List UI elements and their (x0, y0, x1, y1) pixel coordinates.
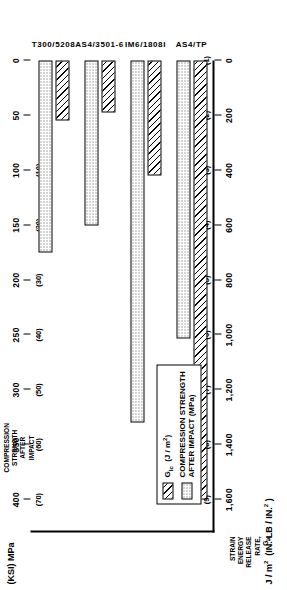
chart-legend: GIc (J / m2) COMPRESSION STRENGTH AFTER … (156, 364, 201, 504)
legend-csai-line-0: COMPRESSION STRENGTH (177, 371, 186, 477)
bottom-tick-mark (214, 443, 221, 444)
top-tick-mark (23, 114, 30, 115)
bar-csai-as4-3501-6 (84, 60, 98, 225)
legend-csai-line-1: AFTER IMPACT (MPa) (186, 394, 195, 477)
bottom-tick-label: 400 (223, 162, 233, 177)
side-label-line-2: RELEASE (244, 536, 252, 590)
top-tick-label: 400 (10, 491, 20, 506)
legend-item-csai: COMPRESSION STRENGTH AFTER IMPACT (MPa) (177, 371, 195, 499)
top-tick-mark (23, 498, 30, 499)
top-axis-title: (KSI) MPa (5, 542, 15, 584)
bar-gic-as4-3501-6 (101, 60, 115, 112)
top-tick-paren-label: (40) (33, 328, 42, 341)
bottom-tick-label: 1,200 (223, 378, 233, 401)
bottom-tick-label: 200 (223, 107, 233, 122)
bottom-tick-label: 1,600 (223, 487, 233, 510)
group-label-line-3: IMPACT (27, 423, 35, 472)
top-tick-paren-label: (70) (33, 492, 42, 505)
top-tick-label: 150 (10, 217, 20, 232)
bottom-tick-mark (214, 388, 221, 389)
bar-csai-im6-1808i (130, 60, 144, 422)
top-tick-mark (23, 224, 30, 225)
top-tick-label: 200 (10, 272, 20, 287)
category-label-im6-1808i: IM6/1808I (125, 40, 166, 49)
bottom-tick-mark (214, 169, 221, 170)
bottom-tick-label: 1,000 (223, 323, 233, 346)
bottom-tick-label: 0 (223, 57, 233, 62)
bottom-tick-mark (214, 59, 221, 60)
bar-gic-im6-1808i (147, 60, 161, 175)
top-tick-label: 0 (10, 57, 20, 62)
side-label-line-1: ENERGY (236, 536, 244, 590)
legend-item-gic: GIc (J / m2) (161, 371, 174, 499)
top-tick-paren-label: (50) (33, 383, 42, 396)
legend-swatch-hatched-icon (162, 482, 173, 499)
top-tick-label: 300 (10, 382, 20, 397)
top-tick-mark (23, 279, 30, 280)
side-label-symbol: GIc (261, 536, 271, 590)
category-label-as4-tp: AS4/TP (175, 40, 207, 49)
bottom-tick-mark (214, 498, 221, 499)
group-label-line-1: STRENGTH (10, 423, 18, 472)
bottom-tick-mark (214, 279, 221, 280)
bottom-tick-mark (214, 114, 221, 115)
top-tick-label: 50 (10, 110, 20, 120)
side-label-line-3: RATE, (253, 536, 261, 590)
figure-rotation-wrapper: (KSI) MPa J / m2 (IN.‑LB / IN.2 ) 400(70… (0, 0, 287, 590)
top-tick-paren-label: (30) (33, 273, 42, 286)
legend-label-csai: COMPRESSION STRENGTH AFTER IMPACT (MPa) (177, 371, 195, 477)
compression-strength-group-label: COMPRESSION STRENGTH AFTER IMPACT (2, 423, 35, 472)
bar-gic-t300-5208 (55, 60, 69, 120)
group-label-line-0: COMPRESSION (2, 423, 10, 472)
top-tick-label: 100 (10, 162, 20, 177)
category-label-t300-5208: T300/5208 (31, 40, 75, 49)
bottom-tick-label: 1,400 (223, 433, 233, 456)
legend-swatch-dotted-icon (181, 482, 192, 499)
bottom-tick-label: 800 (223, 272, 233, 287)
group-label-line-2: AFTER (18, 423, 26, 472)
bottom-tick-mark (214, 224, 221, 225)
category-label-as4-3501-6: AS4/3501-6 (75, 40, 124, 49)
bottom-tick-label: 600 (223, 217, 233, 232)
top-tick-mark (23, 388, 30, 389)
strain-energy-release-rate-label: STRAIN ENERGY RELEASE RATE, GIc (228, 536, 271, 590)
bar-csai-t300-5208 (38, 60, 52, 252)
top-tick-mark (23, 333, 30, 334)
top-tick-label: 250 (10, 327, 20, 342)
top-tick-mark (23, 169, 30, 170)
top-tick-mark (23, 59, 30, 60)
figure-canvas: (KSI) MPa J / m2 (IN.‑LB / IN.2 ) 400(70… (0, 0, 287, 590)
bottom-tick-mark (214, 333, 221, 334)
side-label-line-0: STRAIN (228, 536, 236, 590)
bar-csai-as4-tp (176, 60, 190, 338)
legend-label-gic: GIc (J / m2) (161, 434, 174, 477)
